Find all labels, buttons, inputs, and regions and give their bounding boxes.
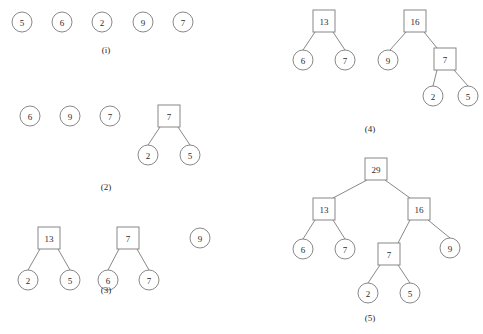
tree-edge bbox=[333, 180, 367, 198]
node-label: 6 bbox=[301, 56, 306, 66]
tree-edge bbox=[303, 32, 315, 50]
node-label: 7 bbox=[343, 245, 348, 255]
node-label: 5 bbox=[188, 151, 193, 161]
tree-edge bbox=[148, 127, 160, 145]
node-label: 13 bbox=[320, 17, 330, 27]
panel-4: 1367169725(4) bbox=[293, 10, 478, 134]
node-label: 9 bbox=[68, 112, 73, 122]
tree-edge bbox=[137, 249, 149, 270]
tree-edge bbox=[398, 220, 410, 243]
node-label: 7 bbox=[108, 112, 113, 122]
tree-edge bbox=[424, 32, 437, 48]
node-label: 2 bbox=[431, 92, 436, 102]
panel-2: 697725(2) bbox=[20, 105, 200, 192]
tree-edge bbox=[385, 180, 410, 198]
panel-caption: (3) bbox=[101, 285, 112, 295]
node-label: 16 bbox=[415, 205, 425, 215]
node-label: 9 bbox=[141, 18, 146, 28]
node-label: 16 bbox=[411, 17, 421, 27]
tree-edge bbox=[333, 220, 345, 239]
tree-edge bbox=[368, 265, 380, 283]
node-label: 7 bbox=[126, 234, 131, 244]
node-label: 7 bbox=[443, 55, 448, 65]
node-label: 6 bbox=[301, 245, 306, 255]
panel-i: 56297(i) bbox=[12, 12, 193, 55]
node-label: 5 bbox=[466, 92, 471, 102]
tree-edge bbox=[108, 249, 119, 270]
node-label: 2 bbox=[146, 151, 151, 161]
tree-edge bbox=[398, 265, 410, 283]
node-label: 7 bbox=[181, 18, 186, 28]
node-label: 2 bbox=[26, 276, 31, 286]
tree-edge bbox=[390, 32, 406, 50]
node-label: 7 bbox=[147, 276, 152, 286]
node-label: 2 bbox=[100, 18, 105, 28]
node-label: 9 bbox=[198, 234, 203, 244]
node-label: 9 bbox=[448, 244, 453, 254]
node-label: 6 bbox=[60, 18, 65, 28]
node-label: 2 bbox=[366, 289, 371, 299]
tree-edge bbox=[303, 220, 315, 239]
node-label: 7 bbox=[343, 56, 348, 66]
panel-caption: (5) bbox=[365, 313, 376, 323]
figure-root: 56297(i)697725(2)13257679(3)1367169725(4… bbox=[0, 0, 483, 334]
tree-edge bbox=[58, 249, 70, 270]
node-label: 29 bbox=[372, 165, 382, 175]
node-label: 13 bbox=[320, 205, 330, 215]
tree-edge bbox=[433, 70, 437, 86]
node-label: 5 bbox=[20, 18, 25, 28]
node-label: 5 bbox=[408, 289, 413, 299]
node-label: 9 bbox=[386, 56, 391, 66]
huffman-tree-diagram: 56297(i)697725(2)13257679(3)1367169725(4… bbox=[0, 0, 483, 334]
node-label: 7 bbox=[167, 112, 172, 122]
tree-edge bbox=[178, 127, 190, 145]
tree-edge bbox=[333, 32, 345, 50]
panel-caption: (4) bbox=[365, 124, 376, 134]
node-label: 5 bbox=[68, 276, 73, 286]
panel-5: 291367167259(5) bbox=[293, 158, 460, 323]
tree-edge bbox=[428, 220, 450, 238]
tree-edge bbox=[28, 249, 40, 270]
node-label: 7 bbox=[387, 250, 392, 260]
tree-edge bbox=[454, 70, 468, 86]
panel-caption: (2) bbox=[101, 182, 112, 192]
panel-3: 13257679(3) bbox=[18, 227, 210, 295]
node-label: 6 bbox=[106, 276, 111, 286]
node-label: 6 bbox=[28, 112, 33, 122]
node-label: 13 bbox=[45, 234, 55, 244]
panel-caption: (i) bbox=[102, 45, 111, 55]
